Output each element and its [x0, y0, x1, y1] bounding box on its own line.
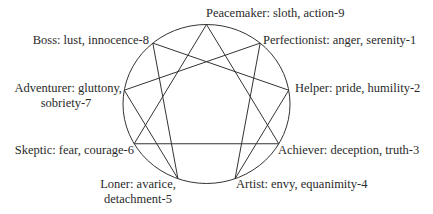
label-type-5-line2: detachment-5 [88, 192, 188, 207]
label-type-5: Loner: avarice, detachment-5 [88, 177, 188, 207]
label-type-5-line1: Loner: avarice, [88, 177, 188, 192]
label-type-8: Boss: lust, innocence-8 [33, 33, 149, 48]
label-type-4: Artist: envy, equanimity-4 [236, 177, 367, 192]
label-type-7-line2: sobriety-7 [10, 96, 122, 111]
label-type-6: Skeptic: fear, courage-6 [15, 143, 134, 158]
label-type-6-text: Skeptic: fear, courage-6 [15, 143, 134, 157]
label-type-7: Adventurer: gluttony, sobriety-7 [10, 81, 122, 111]
label-type-1-text: Perfectionist: anger, serenity-1 [263, 33, 416, 47]
label-type-4-text: Artist: envy, equanimity-4 [236, 177, 367, 191]
label-type-9: Peacemaker: sloth, action-9 [206, 6, 345, 21]
label-type-8-text: Boss: lust, innocence-8 [33, 33, 149, 47]
label-type-9-text: Peacemaker: sloth, action-9 [206, 6, 345, 20]
label-type-3: Achiever: deception, truth-3 [278, 143, 419, 158]
label-type-7-line1: Adventurer: gluttony, [10, 81, 122, 96]
label-type-2-text: Helper: pride, humility-2 [295, 81, 420, 95]
label-type-1: Perfectionist: anger, serenity-1 [263, 33, 416, 48]
label-type-3-text: Achiever: deception, truth-3 [278, 143, 419, 157]
label-type-2: Helper: pride, humility-2 [295, 81, 420, 96]
enneagram-circle [123, 25, 290, 184]
